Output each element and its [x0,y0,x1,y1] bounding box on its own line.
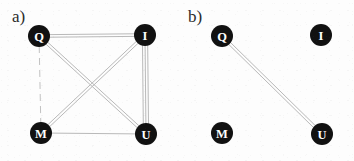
node-q[interactable]: Q [211,25,233,47]
edge-stroke [51,133,136,134]
edge-stroke [148,45,149,124]
edge-q-m [39,46,41,123]
node-i[interactable]: I [134,24,156,46]
edge-m-u [51,133,136,134]
edge-stroke [39,46,41,123]
edge-stroke [228,44,314,128]
edge-stroke [145,45,146,124]
node-label: M [216,127,228,141]
figure-container: QIMUQIMU a)b) [0,0,354,161]
edge-q-u [228,42,316,128]
edges-layer [39,34,316,134]
node-label: M [35,127,47,141]
edge-stroke [143,45,144,124]
edge-stroke [49,34,135,35]
edge-i-u [143,45,149,124]
panel-label-b: b) [188,7,202,26]
node-label: U [317,128,326,142]
node-label: U [141,128,150,142]
node-q[interactable]: Q [28,25,50,47]
edge-stroke [230,42,316,126]
graph-canvas: QIMUQIMU a)b) [0,0,354,161]
node-i[interactable]: I [310,24,332,46]
node-label: I [143,29,148,43]
nodes-layer: QIMUQIMU [28,24,333,145]
panel-label-a: a) [12,7,25,26]
node-label: I [319,29,324,43]
edge-q-i [49,34,135,37]
node-m[interactable]: M [30,122,52,144]
node-label: Q [34,30,44,44]
node-m[interactable]: M [211,122,233,144]
node-u[interactable]: U [135,123,157,145]
edge-stroke [49,36,135,37]
node-label: Q [217,30,227,44]
node-u[interactable]: U [311,123,333,145]
panel-labels-layer: a)b) [12,7,202,26]
